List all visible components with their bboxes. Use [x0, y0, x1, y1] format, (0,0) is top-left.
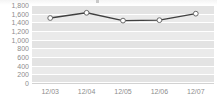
- y-axis: 02004006008001,0001,2001,4001,6001,800: [0, 5, 31, 83]
- x-axis-tick-label: 12/06: [151, 88, 169, 95]
- y-axis-tick-label: 1,000: [11, 36, 29, 43]
- y-axis-tick-label: 0: [25, 80, 29, 87]
- x-axis-tick-label: 12/07: [187, 88, 205, 95]
- y-axis-tick-label: 800: [17, 45, 29, 52]
- x-axis: 12/0312/0412/0512/0612/07: [32, 85, 214, 99]
- plot-wrapper: 02004006008001,0001,2001,4001,6001,800 1…: [0, 5, 217, 99]
- data-series: [32, 5, 214, 83]
- x-axis-tick-label: 12/03: [41, 88, 59, 95]
- data-point-marker: [193, 11, 198, 16]
- clipped-tick-mark: [96, 0, 99, 3]
- data-point-marker: [84, 10, 89, 15]
- x-axis-tick-label: 12/04: [78, 88, 96, 95]
- y-axis-tick-label: 200: [17, 71, 29, 78]
- y-axis-tick-label: 400: [17, 62, 29, 69]
- y-axis-tick-label: 1,400: [11, 19, 29, 26]
- data-point-marker: [48, 16, 53, 21]
- data-point-marker: [157, 18, 162, 23]
- y-axis-tick-label: 600: [17, 54, 29, 61]
- y-axis-tick-label: 1,800: [11, 2, 29, 9]
- data-point-marker: [121, 18, 126, 23]
- x-axis-tick-label: 12/05: [114, 88, 132, 95]
- y-axis-tick-label: 1,600: [11, 10, 29, 17]
- axis-baseline: [32, 83, 214, 84]
- y-axis-tick-label: 1,200: [11, 28, 29, 35]
- line-chart-widget: 02004006008001,0001,2001,4001,6001,800 1…: [0, 0, 217, 99]
- plot-area: [32, 5, 214, 83]
